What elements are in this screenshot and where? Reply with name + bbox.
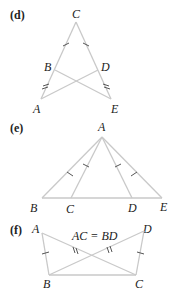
tick-mark-ab: [67, 172, 73, 176]
figure-f: (f) A D B C AC = BD: [10, 222, 152, 291]
geometry-figures: (d) C B D A E (e) A B C D E (f) A: [0, 0, 181, 297]
part-label-f: (f): [10, 223, 22, 237]
point-label-d: D: [127, 201, 137, 215]
point-label-b: B: [30, 201, 38, 215]
figure-e: (e) A B C D E: [10, 120, 168, 216]
point-label-c: C: [135, 277, 144, 291]
equation-ac-equals-bd: AC = BD: [71, 229, 118, 243]
double-tick-de-1: [103, 84, 109, 86]
point-label-a: A: [97, 120, 106, 134]
point-label-b: B: [44, 60, 52, 74]
figure-d: (d) C B D A E: [10, 7, 119, 116]
point-label-a: A: [31, 222, 40, 236]
side-ab: [42, 137, 102, 198]
point-label-b: B: [43, 277, 51, 291]
part-label-e: (e): [10, 121, 23, 135]
side-ae: [102, 137, 162, 198]
segment-da: [41, 70, 98, 99]
point-label-d: D: [100, 60, 110, 74]
segment-be: [55, 70, 111, 99]
point-label-c: C: [72, 7, 81, 21]
point-label-e: E: [110, 102, 119, 116]
part-label-d: (d): [10, 8, 25, 22]
tick-mark-ae: [131, 172, 137, 176]
point-label-e: E: [159, 200, 168, 214]
double-tick-ba-1: [43, 84, 49, 86]
side-ac: [71, 137, 102, 198]
point-label-c: C: [66, 202, 75, 216]
point-label-a: A: [32, 102, 41, 116]
side-ad: [102, 137, 132, 198]
